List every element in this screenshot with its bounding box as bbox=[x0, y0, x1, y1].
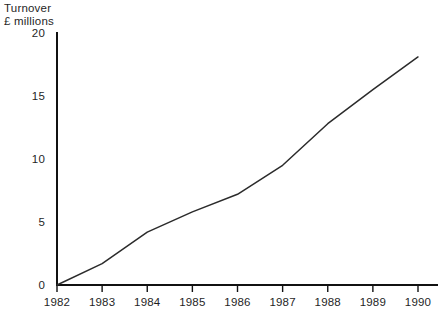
x-axis-tick-label: 1984 bbox=[134, 296, 161, 308]
x-axis-tick-label: 1983 bbox=[89, 296, 115, 308]
x-axis-tick-label: 1988 bbox=[315, 296, 341, 308]
y-axis-tick-label: 5 bbox=[38, 216, 45, 228]
y-axis-tick-label: 0 bbox=[38, 279, 45, 291]
x-axis-tick-label: 1989 bbox=[360, 296, 386, 308]
y-axis-tick-labels: 05101520 bbox=[32, 27, 45, 291]
x-axis-tick-label: 1982 bbox=[44, 296, 70, 308]
turnover-series-line bbox=[57, 57, 418, 285]
x-axis-tick-label: 1985 bbox=[179, 296, 205, 308]
chart-page: Turnover £ millions 05101520 19821983198… bbox=[0, 0, 438, 315]
y-axis-tick-label: 20 bbox=[32, 27, 45, 39]
x-axis-tick-label: 1986 bbox=[224, 296, 250, 308]
x-axis-tick-marks bbox=[57, 285, 418, 292]
line-chart: 05101520 1982198319841985198619871988198… bbox=[0, 0, 438, 315]
x-axis-tick-labels: 198219831984198519861987198819891990 bbox=[44, 296, 431, 308]
y-axis-tick-label: 15 bbox=[32, 90, 45, 102]
x-axis-tick-label: 1990 bbox=[405, 296, 431, 308]
x-axis-tick-label: 1987 bbox=[269, 296, 295, 308]
y-axis-tick-label: 10 bbox=[32, 153, 45, 165]
